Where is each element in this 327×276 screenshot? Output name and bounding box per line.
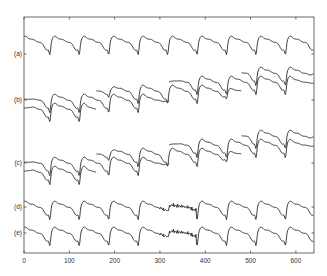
row-label: (d): [14, 203, 22, 211]
x-tick-label: 300: [155, 257, 166, 264]
waveform-trace-b: [24, 103, 96, 122]
row-label: (a): [14, 50, 22, 58]
x-tick-label: 200: [109, 257, 120, 264]
x-tick-label: 100: [64, 257, 75, 264]
x-axis-ticks: 0100200300400500600: [22, 17, 301, 264]
row-label: (e): [14, 229, 22, 237]
waveform-trace-b: [24, 94, 169, 113]
waveform-traces: [24, 36, 314, 246]
x-tick-label: 400: [200, 257, 211, 264]
x-tick-label: 0: [22, 257, 26, 264]
x-tick-label: 500: [245, 257, 256, 264]
row-label: (c): [14, 159, 22, 167]
row-label: (b): [14, 96, 22, 104]
plot-frame: [24, 17, 314, 253]
waveform-trace-c: [24, 166, 96, 185]
waveform-trace-c: [24, 157, 169, 176]
waveform-trace-d: [24, 201, 314, 220]
waveform-chart: 0100200300400500600 (a)(b)(c)(d)(e): [0, 0, 327, 276]
x-tick-label: 600: [290, 257, 301, 264]
waveform-trace-b: [169, 76, 314, 95]
waveform-trace-c: [169, 139, 314, 158]
waveform-trace-e: [24, 227, 314, 246]
waveform-trace-a: [24, 36, 314, 55]
